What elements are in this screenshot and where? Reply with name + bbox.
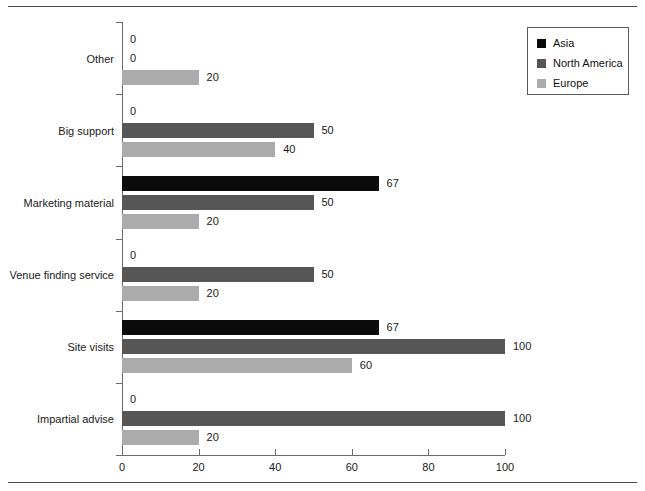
x-tick-20 [199,449,200,455]
bar [122,142,275,157]
bar [122,339,505,354]
bar-value-label: 40 [283,143,295,155]
x-tick-label-0: 0 [119,461,125,473]
bar-row: 0 [122,392,505,407]
bar [122,430,199,445]
x-axis-line [122,455,505,456]
legend-swatch-europe-icon [537,79,546,88]
legend-label-asia: Asia [553,37,574,49]
x-tick-label-40: 40 [269,461,281,473]
bar [122,195,314,210]
bar-value-label: 50 [322,268,334,280]
bar [122,358,352,373]
bar-row: 50 [122,123,505,138]
x-tick-40 [275,449,276,455]
y-group-tick-0 [116,94,122,95]
y-axis-line [122,22,123,455]
legend-swatch-asia-icon [537,39,546,48]
y-group-tick-5 [116,455,122,456]
y-group-tick-2 [116,239,122,240]
bar-row: 20 [122,286,505,301]
bar [122,176,379,191]
legend-swatch-north-america-icon [537,59,546,68]
x-tick-label-20: 20 [192,461,204,473]
category-label: Marketing material [0,197,114,209]
bar-value-label: 20 [207,431,219,443]
bar-row: 0 [122,51,505,66]
legend-item-asia[interactable]: Asia [537,36,574,50]
bar-chart: 020406080100 Other0020Big support05040Ma… [0,0,645,491]
y-axis-top-cap [116,22,122,23]
bar-row: 50 [122,195,505,210]
bar-row: 40 [122,142,505,157]
legend-item-europe[interactable]: Europe [537,76,588,90]
y-group-tick-4 [116,383,122,384]
bar-row: 0 [122,32,505,47]
category-label: Big support [0,125,114,137]
bar-value-label: 0 [130,52,136,64]
bar-value-label: 50 [322,196,334,208]
bar [122,214,199,229]
bar-value-label: 50 [322,124,334,136]
bar-value-label: 0 [130,33,136,45]
bar [122,123,314,138]
x-tick-label-100: 100 [496,461,514,473]
bar [122,70,199,85]
legend-label-north-america: North America [553,57,623,69]
bar-row: 0 [122,104,505,119]
y-group-tick-1 [116,166,122,167]
x-tick-label-80: 80 [422,461,434,473]
x-tick-0 [122,449,123,455]
category-label: Other [0,53,114,65]
bar-value-label: 20 [207,71,219,83]
bar [122,267,314,282]
bar-value-label: 100 [513,412,531,424]
bar-value-label: 0 [130,249,136,261]
bar-value-label: 20 [207,287,219,299]
category-label: Venue finding service [0,269,114,281]
category-label: Impartial advise [0,413,114,425]
legend-label-europe: Europe [553,77,588,89]
bar-value-label: 60 [360,359,372,371]
x-tick-100 [505,449,506,455]
bar-value-label: 67 [387,321,399,333]
x-tick-label-60: 60 [346,461,358,473]
bar-row: 20 [122,214,505,229]
bar [122,411,505,426]
bar-row: 20 [122,430,505,445]
bar-value-label: 67 [387,177,399,189]
bar-value-label: 100 [513,340,531,352]
chart-legend: Asia North America Europe [527,27,629,95]
bar-row: 100 [122,411,505,426]
x-tick-60 [352,449,353,455]
bar [122,320,379,335]
bar-row: 67 [122,176,505,191]
y-group-tick-3 [116,311,122,312]
legend-item-north-america[interactable]: North America [537,56,623,70]
bar [122,286,199,301]
bar-row: 50 [122,267,505,282]
category-label: Site visits [0,341,114,353]
bar-row: 0 [122,248,505,263]
bar-row: 60 [122,358,505,373]
x-tick-80 [428,449,429,455]
bar-row: 100 [122,339,505,354]
bar-row: 20 [122,70,505,85]
bar-row: 67 [122,320,505,335]
bar-value-label: 20 [207,215,219,227]
bar-value-label: 0 [130,105,136,117]
bar-value-label: 0 [130,393,136,405]
